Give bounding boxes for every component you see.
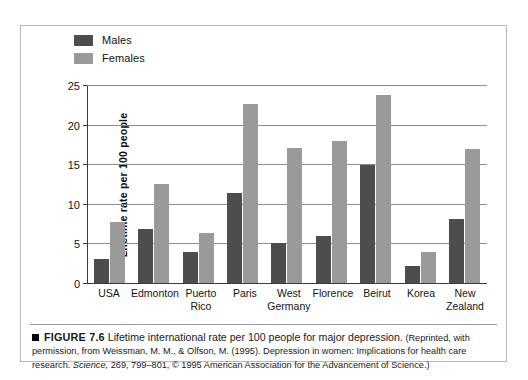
bars-layer (87, 86, 487, 284)
bar-group (265, 86, 309, 284)
x-axis-label: WestGermany (267, 287, 311, 312)
caption-divider (30, 324, 497, 325)
x-axis-label-line1: USA (87, 287, 131, 300)
x-axis-label-line2: Germany (267, 300, 311, 313)
x-axis-label-line1: Florence (311, 287, 355, 300)
figure-credit-journal: Science, (73, 360, 108, 370)
y-tick-mark-0 (83, 283, 87, 284)
bar-females-new-zealand (465, 149, 480, 284)
figure-bullet-icon (32, 334, 39, 341)
bar-group (87, 86, 131, 284)
bar-males-west-germany (271, 243, 286, 284)
y-tick-label-5: 5 (74, 238, 80, 250)
bar-males-edmonton (138, 229, 153, 284)
legend-label-males: Males (102, 34, 132, 46)
x-axis-label-line1: New (443, 287, 487, 300)
bar-males-usa (94, 259, 109, 284)
bar-group (309, 86, 353, 284)
plot-area: 0510152025 (87, 86, 487, 284)
bar-females-edmonton (154, 184, 169, 284)
bar-females-usa (110, 222, 125, 284)
x-axis-label-line1: West (267, 287, 311, 300)
bar-males-korea (405, 266, 420, 284)
bar-females-paris (243, 104, 258, 284)
y-tick-mark-20 (83, 125, 87, 126)
y-tick-label-0: 0 (74, 278, 80, 290)
y-tick-label-25: 25 (68, 80, 80, 92)
bar-group (220, 86, 264, 284)
x-axis-label: PuertoRico (179, 287, 223, 312)
legend-swatch-females (74, 53, 93, 64)
y-axis-line (87, 86, 88, 284)
bar-females-west-germany (287, 148, 302, 284)
bar-females-florence (332, 141, 347, 284)
figure-credit-part2: 269, 799–801, © 1995 American Associatio… (108, 360, 429, 370)
y-tick-label-20: 20 (68, 120, 80, 132)
figure-title-text: Lifetime international rate per 100 peop… (108, 331, 403, 343)
x-axis-label-line1: Paris (223, 287, 267, 300)
bar-males-florence (316, 236, 331, 284)
legend-item-females: Females (74, 50, 145, 66)
bar-males-puerto-rico (183, 252, 198, 284)
y-tick-label-10: 10 (68, 199, 80, 211)
x-axis-label-line2: Zealand (443, 300, 487, 313)
bar-males-beirut (360, 165, 375, 284)
x-axis-label: Korea (399, 287, 443, 312)
x-axis-label-line2: Rico (179, 300, 223, 313)
bar-males-new-zealand (449, 219, 464, 284)
x-axis-label-line1: Puerto (179, 287, 223, 300)
y-tick-mark-5 (83, 243, 87, 244)
x-axis-label: Paris (223, 287, 267, 312)
bar-females-korea (421, 252, 436, 284)
bar-group (176, 86, 220, 284)
bar-group (398, 86, 442, 284)
x-axis-labels: USAEdmontonPuertoRicoParisWestGermanyFlo… (87, 287, 487, 312)
y-tick-mark-10 (83, 204, 87, 205)
y-tick-mark-15 (83, 164, 87, 165)
x-axis-label-line1: Beirut (355, 287, 399, 300)
figure-number: FIGURE 7.6 (44, 331, 105, 343)
bar-group (443, 86, 487, 284)
legend-swatch-males (74, 35, 93, 46)
figure-frame: Males Females Lifetime rate per 100 peop… (20, 25, 507, 362)
x-axis-label: Beirut (355, 287, 399, 312)
x-axis-label: USA (87, 287, 131, 312)
bar-males-paris (227, 193, 242, 284)
legend-item-males: Males (74, 32, 145, 48)
x-axis-label: Edmonton (131, 287, 179, 312)
x-axis-line (87, 283, 487, 284)
y-tick-label-15: 15 (68, 159, 80, 171)
figure-caption: FIGURE 7.6 Lifetime international rate p… (32, 331, 495, 372)
bar-group (131, 86, 175, 284)
x-axis-label: NewZealand (443, 287, 487, 312)
x-axis-label-line1: Edmonton (131, 287, 179, 300)
bar-group (354, 86, 398, 284)
x-axis-label: Florence (311, 287, 355, 312)
chart-legend: Males Females (74, 32, 145, 68)
y-tick-mark-25 (83, 85, 87, 86)
bar-females-puerto-rico (199, 233, 214, 284)
bar-females-beirut (376, 95, 391, 284)
x-axis-label-line1: Korea (399, 287, 443, 300)
legend-label-females: Females (102, 52, 145, 64)
